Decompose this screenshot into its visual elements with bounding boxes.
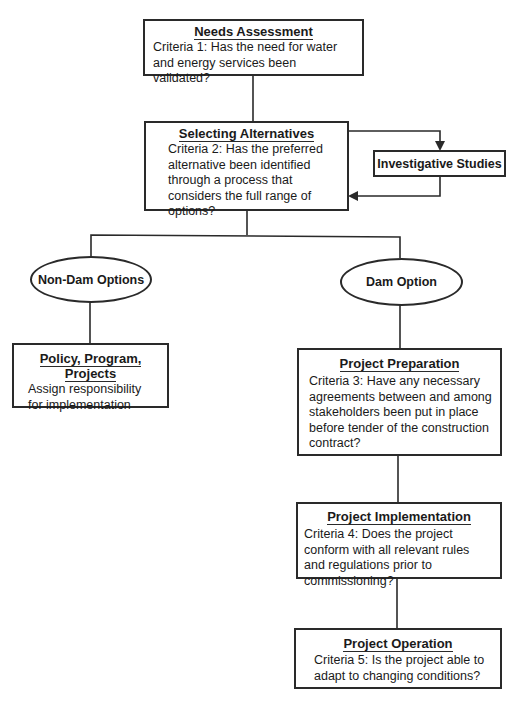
node-investigative-studies: Investigative Studies [373,150,506,177]
node-project-operation: Project Operation Criteria 5: Is the pro… [294,628,502,689]
node-title: Needs Assessment [194,24,313,40]
node-needs-assessment: Needs Assessment Criteria 1: Has the nee… [143,19,364,76]
node-body: Criteria 3: Have any necessary agreement… [299,371,500,452]
node-title: Project Implementation [327,509,471,525]
node-body: Criteria 1: Has the need for water and e… [145,39,362,87]
node-body: Criteria 2: Has the preferred alternativ… [146,141,347,220]
node-dam-option: Dam Option [340,258,463,306]
node-title: Project Operation [343,636,452,652]
node-non-dam-options: Non-Dam Options [30,256,152,303]
node-policy-program-projects: Policy, Program, Projects Assign respons… [12,343,169,408]
node-title: Project Preparation [340,356,460,372]
node-title: Selecting Alternatives [179,126,314,142]
node-project-implementation: Project Implementation Criteria 4: Does … [296,502,502,579]
node-body: Criteria 4: Does the project conform wit… [298,524,500,589]
node-title: Policy, Program, Projects [40,351,142,382]
node-title: Investigative Studies [377,157,501,171]
node-body: Criteria 5: Is the project able to adapt… [296,651,500,684]
edge-branch [91,235,400,258]
node-title: Non-Dam Options [38,273,144,287]
node-selecting-alternatives: Selecting Alternatives Criteria 2: Has t… [144,121,349,211]
edge-selecting-investigative [348,131,440,149]
node-body: Assign responsibility for implementation [14,381,167,413]
node-title: Dam Option [366,275,437,289]
edge-investigative-selecting [350,176,440,196]
node-project-preparation: Project Preparation Criteria 3: Have any… [297,348,502,456]
